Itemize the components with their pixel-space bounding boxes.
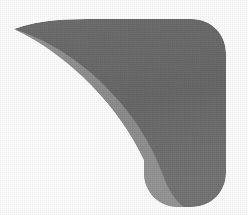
bottom-left-fade xyxy=(0,120,96,215)
swoosh-logo xyxy=(0,0,248,215)
logo-canvas xyxy=(0,0,248,215)
